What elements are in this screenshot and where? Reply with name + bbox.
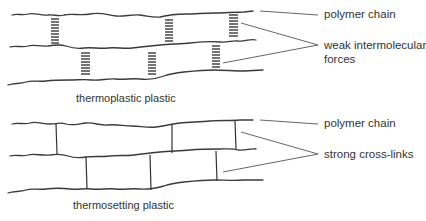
- label-polymer-chain-bottom: polymer chain: [324, 116, 396, 130]
- bond-ladder-2-2: [148, 53, 156, 74]
- bond-ladder-1-2: [165, 20, 173, 41]
- label-strong-cross-links: strong cross-links: [324, 147, 413, 161]
- bond-ladder-1-3: [229, 15, 238, 36]
- polymer-chain-5: [10, 149, 256, 158]
- weak-intermolecular-bonds: [51, 15, 238, 74]
- label-weak-intermolecular: weak intermolecular: [324, 38, 426, 52]
- leader-line-cross-links-b: [223, 154, 318, 172]
- leader-line-cross-links-a: [241, 132, 318, 154]
- cross-link-2-2: [150, 155, 151, 190]
- caption-thermosetting: thermosetting plastic: [73, 199, 174, 212]
- cross-link-2-3: [216, 151, 217, 181]
- bond-ladder-2-3: [212, 46, 220, 67]
- thermosetting-diagram: [8, 120, 318, 193]
- polymer-chain-1: [12, 11, 253, 17]
- cross-link-1-1: [56, 124, 57, 154]
- bond-ladder-1-1: [51, 19, 59, 43]
- label-polymer-chain-top: polymer chain: [324, 7, 396, 21]
- polymer-chain-3: [8, 70, 263, 85]
- label-forces: forces: [324, 52, 355, 66]
- bond-ladder-2-1: [81, 53, 90, 74]
- leader-line-weak-forces-b: [223, 45, 318, 63]
- polymer-chain-4: [12, 120, 253, 127]
- polymer-chain-6: [8, 180, 263, 193]
- thermoplastic-diagram: [8, 11, 318, 85]
- cross-link-1-3: [235, 121, 236, 149]
- caption-thermoplastic: thermoplastic plastic: [76, 92, 176, 105]
- leader-line-weak-forces-a: [241, 23, 318, 45]
- leader-line-polymer-chain-bottom: [260, 120, 318, 124]
- leader-line-polymer-chain-top: [260, 11, 318, 15]
- polymer-chain-2: [10, 39, 256, 48]
- cross-link-2-1: [86, 157, 87, 189]
